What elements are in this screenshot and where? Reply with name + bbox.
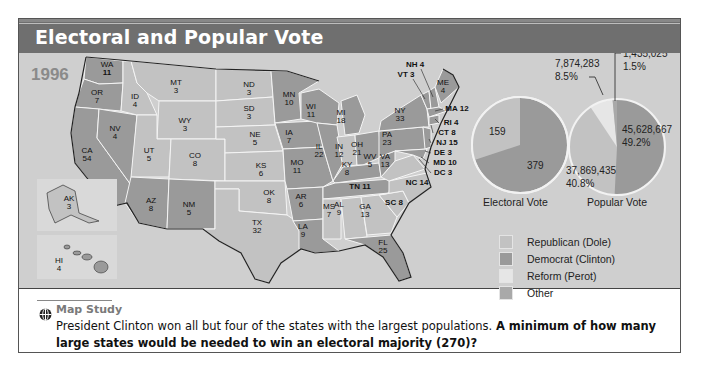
- label-ri: RI 4: [444, 118, 459, 127]
- map-study-title: Map Study: [56, 303, 122, 316]
- label-tn: TN 11: [349, 182, 371, 191]
- electoral-vote-pie: 159 379: [472, 97, 568, 193]
- hawaii-inset: [37, 235, 117, 279]
- label-pa: PA23: [382, 130, 393, 147]
- legend-swatch-democrat: [499, 252, 513, 266]
- label-tx: TX32: [252, 218, 263, 235]
- state-nj: [423, 127, 431, 149]
- other-leader: [615, 53, 621, 101]
- popular-pie-caption: Popular Vote: [587, 196, 647, 208]
- label-mi: MI18: [337, 108, 346, 125]
- map-study-text: President Clinton won all but four of th…: [56, 318, 666, 352]
- map-area: 1996: [19, 53, 680, 289]
- legend-item-democrat: Democrat (Clinton): [499, 250, 615, 267]
- figure-panel: Electoral and Popular Vote 1996: [18, 18, 681, 353]
- label-ca: CA54: [81, 146, 93, 163]
- popular-dem-pct: 49.2%: [622, 137, 650, 148]
- map-study-box: Map Study President Clinton won all but …: [19, 289, 680, 353]
- electoral-dem-value: 379: [527, 160, 544, 171]
- label-wi: WI11: [306, 102, 316, 119]
- label-sc: SC 8: [385, 198, 403, 207]
- label-va: VA13: [380, 152, 391, 169]
- legend-swatch-reform: [499, 269, 513, 283]
- label-ny: NY33: [394, 106, 406, 123]
- popular-other-value: 1,435,025: [623, 53, 668, 59]
- label-dc: DC 3: [434, 168, 453, 177]
- figure-title: Electoral and Popular Vote: [35, 26, 323, 48]
- header-rule: [19, 23, 680, 24]
- popular-reform-pct: 8.5%: [555, 71, 578, 82]
- legend-swatch-republican: [499, 235, 513, 249]
- label-md: MD 10: [433, 158, 457, 167]
- label-ct: CT 8: [438, 128, 456, 137]
- electoral-pie-caption: Electoral Vote: [483, 196, 548, 208]
- label-de: DE 3: [434, 148, 452, 157]
- label-nj: NJ 15: [436, 138, 458, 147]
- popular-rep-value: 37,869,435: [566, 165, 616, 176]
- study-rule: [37, 300, 112, 301]
- globe-icon: [39, 308, 52, 321]
- popular-other-pct: 1.5%: [623, 61, 646, 72]
- label-vt: VT 3: [398, 70, 415, 79]
- state-ct: [429, 115, 439, 125]
- reform-leader: [589, 77, 603, 95]
- electoral-rep-value: 159: [489, 126, 506, 137]
- label-oh: OH21: [351, 140, 363, 157]
- label-ma: MA 12: [445, 104, 469, 113]
- label-nh: NH 4: [406, 60, 425, 69]
- popular-rep-pct: 40.8%: [566, 178, 594, 189]
- popular-vote-pie: 45,628,667 49.2% 37,869,435 40.8% 7,874,…: [555, 53, 672, 195]
- popular-dem-value: 45,628,667: [622, 124, 672, 135]
- popular-reform-value: 7,874,283: [555, 58, 600, 69]
- legend-item-republican: Republican (Dole): [499, 233, 615, 250]
- figure-header: Electoral and Popular Vote: [19, 19, 680, 53]
- label-in: IN12: [335, 142, 344, 159]
- legend-item-reform: Reform (Perot): [499, 267, 615, 284]
- label-nc: NC 14: [406, 178, 429, 187]
- label-fl: FL25: [378, 238, 388, 255]
